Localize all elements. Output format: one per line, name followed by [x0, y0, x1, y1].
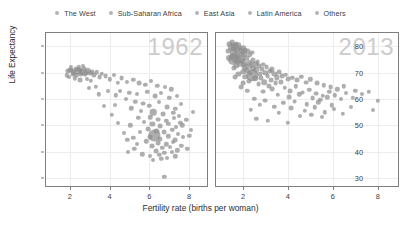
data-point	[332, 107, 336, 111]
data-point	[143, 83, 147, 87]
data-point	[165, 104, 170, 109]
data-point	[298, 114, 302, 118]
data-point	[142, 120, 146, 124]
data-point	[231, 65, 236, 70]
legend-label: Latin America	[257, 9, 302, 18]
data-point	[125, 80, 129, 84]
y-tick-label: 40	[349, 147, 363, 156]
panel-1962: 1962	[45, 32, 208, 187]
x-tick-mark	[333, 187, 334, 190]
data-point	[144, 139, 148, 143]
data-point	[125, 137, 129, 141]
data-point	[122, 131, 126, 135]
data-point	[170, 127, 174, 131]
data-point	[245, 88, 249, 92]
data-point	[314, 91, 319, 96]
y-tick-mark	[41, 178, 44, 179]
legend-item-latin-america: Latin America	[248, 9, 302, 18]
y-tick-label: 80	[349, 42, 363, 51]
data-point	[310, 96, 315, 101]
data-point	[187, 134, 191, 138]
data-point	[147, 104, 151, 108]
data-point	[175, 94, 179, 98]
x-tick-label: 8	[187, 192, 191, 201]
data-point	[150, 109, 156, 115]
data-point	[165, 156, 169, 160]
data-point	[177, 114, 181, 118]
x-tick-mark	[378, 187, 379, 190]
data-point	[297, 92, 301, 96]
data-point	[112, 73, 116, 77]
data-point	[156, 140, 161, 145]
data-point	[335, 87, 339, 91]
data-point	[113, 103, 117, 107]
x-tick-mark	[189, 187, 190, 190]
x-axis-title: Fertility rate (births per woman)	[0, 203, 401, 213]
y-tick-mark	[41, 46, 44, 47]
data-point	[163, 85, 167, 89]
data-point	[102, 104, 106, 108]
data-point	[118, 89, 122, 93]
x-tick-mark	[110, 187, 111, 190]
data-point	[353, 89, 357, 93]
data-point	[246, 78, 251, 83]
data-point	[137, 81, 142, 86]
data-point	[327, 90, 331, 94]
data-point	[309, 113, 313, 117]
data-point	[303, 80, 308, 85]
data-point	[299, 75, 303, 79]
y-tick-mark	[41, 72, 44, 73]
x-tick-mark	[243, 187, 244, 190]
data-point	[132, 146, 136, 150]
legend-dot-icon	[315, 11, 319, 15]
data-point	[77, 78, 82, 83]
y-tick-mark	[41, 151, 44, 152]
data-point	[174, 125, 178, 129]
data-point	[254, 117, 258, 121]
data-point	[113, 93, 117, 97]
data-point	[115, 80, 119, 84]
legend-item-east-asia: East Asia	[195, 9, 235, 18]
data-point	[279, 79, 284, 84]
data-point	[322, 83, 326, 87]
data-point	[155, 84, 159, 88]
data-point	[252, 97, 256, 101]
data-point	[263, 98, 268, 103]
x-tick-label: 2	[241, 192, 245, 201]
data-point	[126, 150, 130, 154]
data-point	[168, 145, 172, 149]
data-point	[281, 100, 285, 104]
legend-item-the-west: The West	[55, 9, 95, 18]
data-point	[313, 105, 317, 109]
legend-label: East Asia	[204, 9, 235, 18]
data-point	[179, 144, 183, 148]
data-point	[172, 116, 176, 120]
data-point	[339, 97, 343, 101]
data-point	[288, 89, 293, 94]
data-point	[127, 90, 131, 94]
x-tick-label: 8	[376, 192, 380, 201]
data-point	[241, 81, 246, 86]
data-point	[129, 106, 133, 110]
data-point	[162, 151, 166, 155]
data-point	[156, 117, 161, 122]
data-point	[135, 142, 139, 146]
data-point	[151, 158, 155, 162]
x-tick-mark	[149, 187, 150, 190]
x-tick-label: 2	[68, 192, 72, 201]
y-tick-label: 60	[349, 94, 363, 103]
legend-dot-icon	[248, 11, 252, 15]
legend-label: Others	[324, 9, 346, 18]
data-point	[249, 107, 253, 111]
data-point	[305, 102, 309, 106]
data-point	[153, 94, 158, 99]
x-tick-label: 6	[331, 192, 335, 201]
data-point	[69, 65, 73, 69]
data-point	[303, 108, 307, 112]
data-point	[250, 50, 255, 55]
x-tick-mark	[288, 187, 289, 190]
data-point	[148, 135, 153, 140]
data-point	[367, 90, 371, 94]
data-point	[150, 144, 155, 149]
legend-label: Sub-Saharan Africa	[118, 9, 182, 18]
